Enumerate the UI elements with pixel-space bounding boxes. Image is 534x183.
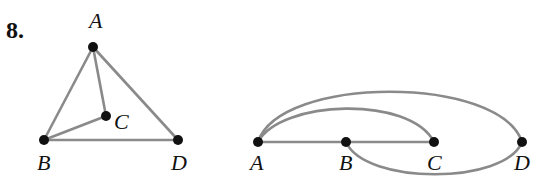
- vertex-d: [173, 135, 183, 145]
- vertex-b: [341, 137, 351, 147]
- label-d: D: [513, 150, 530, 175]
- label-b: B: [339, 150, 352, 175]
- graph-diagram: 8. A C B D A B C D: [0, 0, 534, 183]
- right-graph: A B C D: [248, 92, 530, 175]
- vertex-b: [39, 135, 49, 145]
- label-d: D: [170, 150, 187, 175]
- vertex-c: [101, 111, 111, 121]
- label-b: B: [37, 150, 50, 175]
- vertex-a: [88, 42, 98, 52]
- left-graph: A C B D: [37, 8, 187, 175]
- vertex-d: [517, 137, 527, 147]
- edge-a-d: [93, 47, 178, 140]
- edge-a-b: [44, 47, 93, 140]
- label-a: A: [248, 150, 264, 175]
- vertex-c: [429, 137, 439, 147]
- problem-number: 8.: [6, 17, 24, 43]
- label-c: C: [114, 109, 129, 134]
- vertex-a: [253, 137, 263, 147]
- label-a: A: [87, 8, 103, 33]
- label-c: C: [427, 150, 442, 175]
